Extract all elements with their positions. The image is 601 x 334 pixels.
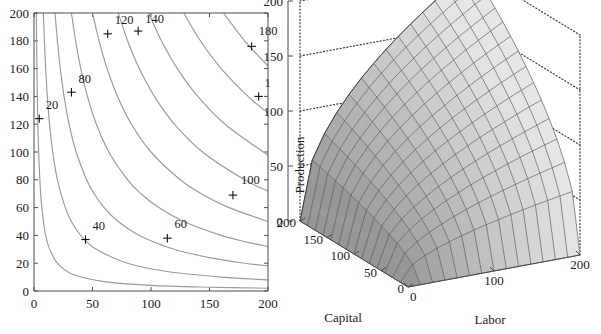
- contour-level-labels: 204060801001201401180: [46, 12, 278, 233]
- contour-label-120: 120: [115, 13, 134, 27]
- contour-label-60: 60: [174, 217, 187, 231]
- production-axis-title: Production: [292, 136, 307, 194]
- contour-y-tick-label: 60: [16, 200, 29, 215]
- contour-x-tick-label: 50: [86, 296, 99, 311]
- contour-line-level-140: [149, 13, 268, 155]
- contour-line-level-120: [118, 13, 268, 191]
- contour-label-40: 40: [93, 219, 106, 233]
- contour-marker-60: [163, 234, 171, 242]
- production-tick-label: 150: [264, 49, 284, 64]
- contour-label-100: 100: [241, 173, 260, 187]
- contour-marker-160: [254, 92, 262, 100]
- capital-tick-label: 150: [304, 232, 324, 247]
- production-tick-label: 50: [270, 159, 283, 174]
- contour-y-tick-label: 160: [10, 61, 30, 76]
- contour-line-level-20: [36, 13, 268, 288]
- contour-line-level-100: [93, 13, 269, 222]
- production-tick-label: 200: [264, 0, 284, 9]
- contour-x-tick-label: 200: [258, 296, 278, 311]
- contour-y-tick-label: 0: [23, 284, 30, 299]
- labor-tick-label: 200: [570, 257, 590, 272]
- contour-y-tick-label: 140: [10, 89, 30, 104]
- contour-marker-180: [247, 42, 255, 50]
- contour-label-20: 20: [46, 98, 59, 112]
- contour-x-tick-label: 150: [200, 296, 220, 311]
- production-tick-label: 100: [264, 104, 284, 119]
- surface-plot-panel: 0501001502000501001502000100200 Producti…: [290, 0, 601, 334]
- capital-tick-label: 50: [364, 265, 377, 280]
- contour-y-tick-label: 120: [10, 117, 30, 132]
- contour-y-tick-label: 180: [10, 33, 30, 48]
- contour-y-tick-label: 20: [16, 256, 29, 271]
- contour-label-markers: [35, 27, 263, 244]
- contour-marker-120: [104, 30, 112, 38]
- surface-shaded-faces: [300, 0, 580, 287]
- capital-tick-label: 0: [398, 281, 405, 296]
- contour-lines-group: [36, 13, 268, 288]
- contour-marker-80: [67, 88, 75, 96]
- figure-root: 020406080100120140160180200 050100150200…: [0, 0, 601, 334]
- capital-tick-label: 100: [331, 248, 351, 263]
- contour-marker-140: [134, 27, 142, 35]
- labor-tick-label: 100: [484, 273, 504, 288]
- contour-y-tick-label: 80: [16, 172, 29, 187]
- capital-tick-label: 200: [277, 215, 297, 230]
- contour-y-tick-label: 100: [10, 145, 30, 160]
- contour-plot-panel: 020406080100120140160180200 050100150200…: [0, 0, 300, 334]
- contour-line-level-60: [55, 13, 268, 266]
- labor-tick-label: 0: [410, 289, 417, 304]
- contour-x-tick-labels: 050100150200: [31, 296, 278, 311]
- capital-axis-title: Capital: [324, 310, 362, 325]
- contour-y-tick-label: 40: [16, 228, 29, 243]
- labor-axis-title: Labor: [474, 312, 506, 327]
- contour-line-level-40: [43, 13, 268, 280]
- contour-line-level-160: [184, 13, 268, 113]
- contour-label-80: 80: [78, 72, 91, 86]
- surface-plot-svg: 0501001502000501001502000100200 Producti…: [290, 0, 601, 334]
- contour-line-level-180: [224, 13, 268, 66]
- contour-marker-20: [35, 114, 43, 122]
- contour-y-tick-labels: 020406080100120140160180200: [10, 6, 30, 299]
- contour-plot-svg: 020406080100120140160180200 050100150200…: [0, 0, 300, 334]
- contour-y-tick-label: 200: [10, 6, 30, 21]
- contour-x-tick-label: 0: [31, 296, 38, 311]
- contour-x-tick-label: 100: [141, 296, 161, 311]
- contour-label-140: 140: [145, 12, 164, 26]
- contour-marker-100: [229, 191, 237, 199]
